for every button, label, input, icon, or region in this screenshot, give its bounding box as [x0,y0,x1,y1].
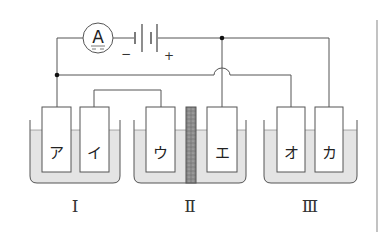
wire-i-to-u [94,90,161,107]
electrode-i: イ [80,107,109,172]
electrode-a: ア [42,107,71,172]
junction-dot-top [220,36,225,41]
electrode-label-a: ア [49,144,64,162]
cell-label-I: Ⅰ [72,196,79,216]
electrode-ka: カ [315,107,343,172]
battery-negative-sign: − [121,47,131,61]
wire-battery-positive [158,38,329,107]
junction-dot-left [55,73,60,78]
electrode-label-u: ウ [153,144,168,162]
porous-separator [186,107,196,183]
cell-label-III: Ⅲ [302,196,318,216]
electrode-e: エ [207,107,237,172]
cell-label-II: Ⅱ [184,196,196,216]
electrode-label-e: エ [215,144,230,162]
ammeter-label: A [92,27,104,47]
electrode-label-i: イ [87,144,102,162]
electrode-label-o: オ [284,144,299,162]
wire-middle-hop [57,68,291,107]
ammeter: A [83,23,113,53]
circuit-diagram: ア イ ウ エ オ カ A [0,0,381,236]
electrode-u: ウ [146,107,175,172]
battery-positive-sign: + [164,49,174,63]
battery: − + [121,24,174,63]
electrode-label-ka: カ [322,144,337,162]
electrode-o: オ [277,107,305,172]
wire-ammeter-left [57,38,83,107]
